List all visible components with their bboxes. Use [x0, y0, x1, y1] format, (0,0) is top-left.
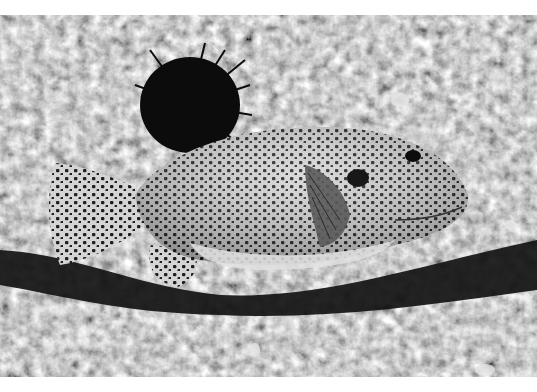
photo — [0, 15, 537, 377]
fish-eye — [405, 150, 421, 162]
photo-canvas — [0, 15, 537, 377]
